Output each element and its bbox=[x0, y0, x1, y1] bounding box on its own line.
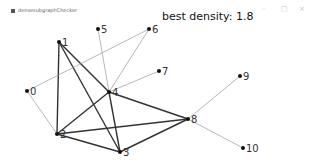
node-1 bbox=[57, 40, 61, 44]
node-label-5: 5 bbox=[101, 24, 107, 35]
node-3 bbox=[118, 150, 122, 154]
edge-0-6 bbox=[27, 29, 149, 91]
node-9 bbox=[238, 74, 242, 78]
edge-1-2 bbox=[57, 42, 59, 134]
graph-canvas: 012345678910 bbox=[0, 0, 319, 162]
node-label-3: 3 bbox=[123, 147, 129, 158]
node-label-4: 4 bbox=[112, 87, 118, 98]
node-label-9: 9 bbox=[243, 71, 249, 82]
edge-8-9 bbox=[188, 76, 240, 119]
node-7 bbox=[157, 69, 161, 73]
node-8 bbox=[186, 117, 190, 121]
node-label-8: 8 bbox=[191, 114, 197, 125]
edge-2-8 bbox=[57, 119, 188, 134]
node-4 bbox=[107, 90, 111, 94]
node-label-10: 10 bbox=[246, 143, 259, 154]
best-density-label: best density: 1.8 bbox=[162, 10, 254, 23]
edge-3-8 bbox=[120, 119, 188, 152]
edge-0-2 bbox=[27, 91, 57, 134]
node-2 bbox=[55, 132, 59, 136]
edge-2-4 bbox=[57, 92, 109, 134]
node-label-1: 1 bbox=[62, 37, 68, 48]
node-5 bbox=[96, 27, 100, 31]
edge-4-6 bbox=[109, 29, 149, 92]
node-0 bbox=[25, 89, 29, 93]
edge-4-8 bbox=[109, 92, 188, 119]
node-6 bbox=[147, 27, 151, 31]
edge-2-3 bbox=[57, 134, 120, 152]
edge-1-3 bbox=[59, 42, 120, 152]
node-10 bbox=[241, 146, 245, 150]
node-label-7: 7 bbox=[162, 66, 168, 77]
node-label-6: 6 bbox=[152, 24, 158, 35]
node-label-2: 2 bbox=[60, 129, 66, 140]
node-label-0: 0 bbox=[30, 86, 36, 97]
